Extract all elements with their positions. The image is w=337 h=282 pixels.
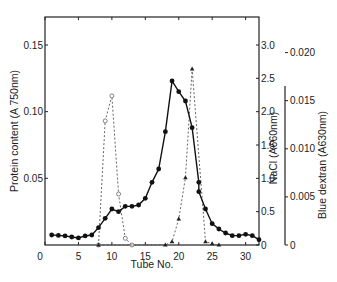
left-tick-label: 0.10 [24, 106, 44, 117]
nacl-tick-label: 0 [261, 240, 267, 251]
nacl-axis-title: NaCl (A660nm) [267, 112, 279, 184]
x-tick-label: 5 [76, 251, 82, 262]
nacl-tick-label: 0.5 [261, 206, 275, 217]
left-tick-label: 0.15 [24, 40, 44, 51]
blue-dextran-series [97, 94, 134, 247]
x-tick-label: 10 [106, 251, 118, 262]
nacl-tick-label: 3.0 [261, 40, 275, 51]
x-axis-title: Tube No. [131, 258, 174, 270]
chart: 0510152025300.050.100.1500.51.01.52.02.5… [0, 0, 337, 282]
protein-content-series [49, 79, 261, 242]
blue-dextran-tick-label: 0.020 [290, 47, 315, 58]
x-tick-label: 25 [207, 251, 219, 262]
blue-dextran-tick-label: 0 [290, 240, 296, 251]
left-axis-title: Protein content (A 750nm) [8, 70, 20, 192]
blue-dextran-axis-title: Blue dextran (A630nm) [316, 111, 328, 219]
blue-dextran-tick-label: 0.010 [290, 143, 315, 154]
nacl-tick-label: 2.5 [261, 73, 275, 84]
x-tick-label: 0 [37, 251, 43, 262]
blue-dextran-tick-label: 0.005 [290, 191, 315, 202]
plot-frame [45, 17, 259, 245]
left-tick-label: 0.05 [24, 173, 44, 184]
nacl-series [96, 67, 221, 247]
blue-dextran-tick-label: 0.015 [290, 95, 315, 106]
x-tick-label: 20 [173, 251, 185, 262]
data-series [49, 67, 261, 248]
x-tick-label: 30 [240, 251, 252, 262]
